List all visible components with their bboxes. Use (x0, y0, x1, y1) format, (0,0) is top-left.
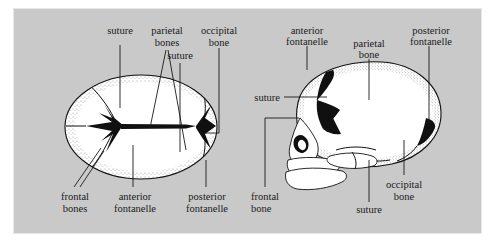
label-posterior-fontanelle-lateral-line2: fontanelle (410, 36, 452, 47)
figure-artwork: suture parietal bones occipital bone sut… (0, 0, 494, 241)
label-suture-top: suture (107, 25, 133, 36)
label-parietal-bone-lateral-line2: bone (359, 49, 380, 60)
label-frontal-bones-line1: frontal (61, 191, 89, 202)
label-occipital-bone-line2: bone (209, 37, 230, 48)
label-anterior-fontanelle-lateral-line1: anterior (291, 25, 324, 36)
label-frontal-bones-line2: bones (63, 203, 88, 214)
anatomical-figure: suture parietal bones occipital bone sut… (0, 0, 494, 241)
mandible-lateral (285, 168, 346, 190)
label-suture-second: suture (167, 50, 193, 61)
sagittal-suture-superior (121, 124, 196, 129)
label-frontal-bone-lateral-line1: frontal (251, 191, 279, 202)
label-anterior-fontanelle-lateral-line2: fontanelle (286, 36, 328, 47)
label-anterior-fontanelle-line2: fontanelle (114, 203, 156, 214)
label-parietal-bone-lateral-line1: parietal (353, 38, 385, 49)
label-posterior-fontanelle-line1: posterior (188, 191, 226, 202)
lateral-view-skull (285, 62, 441, 190)
label-suture-bottom-lateral: suture (356, 204, 382, 215)
zygomatic-arch-lateral (327, 153, 377, 168)
label-posterior-fontanelle-line2: fontanelle (186, 203, 228, 214)
label-occipital-bone-line1: occipital (201, 25, 237, 36)
label-occipital-bone-lateral-line2: bone (394, 191, 415, 202)
label-frontal-bone-lateral-line2: bone (251, 203, 272, 214)
label-posterior-fontanelle-lateral-line1: posterior (412, 25, 450, 36)
label-anterior-fontanelle-line1: anterior (119, 191, 152, 202)
label-occipital-bone-lateral-line1: occipital (386, 179, 422, 190)
label-parietal-bones-line1: parietal (151, 25, 183, 36)
superior-view-skull (65, 75, 217, 179)
label-parietal-bones-line2: bones (155, 37, 180, 48)
label-suture-left-lateral: suture (254, 92, 280, 103)
